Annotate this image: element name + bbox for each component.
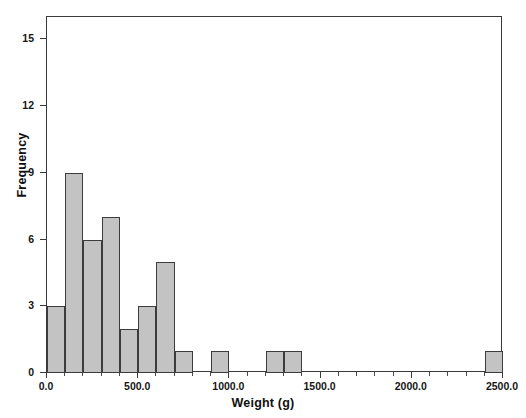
histogram-bar [211,351,229,373]
y-axis-title: Frequency [15,119,29,211]
y-tick-label: 9 [8,167,34,177]
x-tick-label: 2500.0 [472,381,526,392]
histogram-bar [83,240,101,374]
histogram-chart: Frequency 03691215 0.0500.01000.01500.02… [0,0,526,418]
histogram-bar [485,351,503,373]
histogram-bar [156,262,174,373]
histogram-bar [120,329,138,374]
x-tick-minor-mark [247,372,248,376]
x-tick-minor-mark [393,372,394,376]
histogram-bar [175,351,193,373]
x-tick-minor-mark [356,372,357,376]
histogram-bar [266,351,284,373]
x-tick-minor-mark [466,372,467,376]
x-tick-minor-mark [374,372,375,376]
histogram-bar [284,351,302,373]
x-tick-mark [411,372,412,378]
x-tick-label: 1000.0 [198,381,258,392]
y-tick-label: 12 [8,100,34,110]
x-tick-label: 0.0 [16,381,76,392]
x-tick-label: 1500.0 [290,381,350,392]
x-tick-minor-mark [447,372,448,376]
histogram-bar [47,306,65,373]
y-tick-label: 0 [8,367,34,377]
histogram-bar [138,306,156,373]
x-tick-minor-mark [338,372,339,376]
x-tick-minor-mark [429,372,430,376]
y-tick-label: 15 [8,33,34,43]
histogram-bar [102,217,120,373]
x-tick-mark [320,372,321,378]
plot-area [46,16,502,372]
x-tick-label: 500.0 [107,381,167,392]
x-axis-title: Weight (g) [0,396,526,410]
histogram-bar [65,173,83,373]
x-tick-label: 2000.0 [381,381,441,392]
y-tick-label: 3 [8,300,34,310]
y-tick-label: 6 [8,234,34,244]
